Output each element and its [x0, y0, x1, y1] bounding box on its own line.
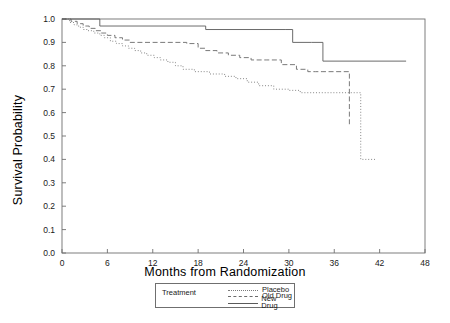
- svg-text:0.5: 0.5: [43, 131, 55, 141]
- svg-text:0.6: 0.6: [43, 108, 55, 118]
- svg-text:0.3: 0.3: [43, 178, 55, 188]
- solid-line-key: [228, 300, 257, 306]
- dashed-line-key: [228, 293, 258, 299]
- legend-label: New Drug: [261, 296, 294, 309]
- legend-entries: PlaceboOld DrugNew Drug: [228, 287, 294, 307]
- svg-text:0.4: 0.4: [43, 154, 55, 164]
- y-axis-title: Survival Probability: [11, 95, 25, 205]
- legend: Treatment PlaceboOld DrugNew Drug: [155, 283, 295, 308]
- series-lines: [62, 19, 406, 159]
- x-axis-title: Months from Randomization: [0, 265, 450, 279]
- svg-text:0.0: 0.0: [43, 248, 55, 258]
- svg-text:0.9: 0.9: [43, 37, 55, 47]
- y-axis-ticks: 0.00.10.20.30.40.50.60.70.80.91.0: [43, 14, 66, 258]
- svg-text:0.8: 0.8: [43, 61, 55, 71]
- svg-text:1.0: 1.0: [43, 14, 55, 24]
- chart-canvas: 0612182430364248 0.00.10.20.30.40.50.60.…: [0, 0, 450, 323]
- svg-text:0.7: 0.7: [43, 84, 55, 94]
- y-axis-title-wrap: Survival Probability: [8, 60, 28, 240]
- series-line-placebo: [62, 19, 376, 159]
- series-line-new-drug: [62, 19, 406, 61]
- dotted-line-key: [228, 287, 258, 293]
- svg-text:0.1: 0.1: [43, 225, 55, 235]
- legend-entry-new-drug: New Drug: [228, 300, 294, 307]
- series-line-old-drug: [62, 19, 349, 125]
- legend-title: Treatment: [162, 288, 196, 297]
- plot-frame: [62, 19, 425, 253]
- svg-text:0.2: 0.2: [43, 201, 55, 211]
